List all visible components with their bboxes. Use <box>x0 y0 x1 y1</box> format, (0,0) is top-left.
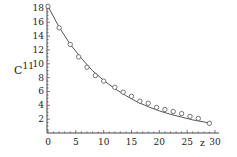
x-tick-label: 10 <box>98 137 110 147</box>
y-tick-label: 10 <box>33 59 45 69</box>
y-tick-label: 14 <box>33 31 45 41</box>
axes <box>47 4 219 133</box>
y-tick-label: 2 <box>38 114 44 124</box>
y-axis-label: C11 <box>14 61 34 77</box>
data-point <box>196 116 200 120</box>
data-markers <box>46 4 212 125</box>
x-tick-label: 5 <box>73 137 79 147</box>
ticks: 05101520253024681012141618 <box>33 3 221 147</box>
fit-curve <box>48 6 209 123</box>
data-point <box>93 73 97 77</box>
y-tick-label: 18 <box>33 3 45 13</box>
data-point <box>138 99 142 103</box>
y-tick-label: 16 <box>33 17 45 27</box>
x-tick-label: 0 <box>45 137 51 147</box>
data-point <box>171 109 175 113</box>
fit-line <box>48 6 209 123</box>
data-point <box>179 111 183 115</box>
data-point <box>129 94 133 98</box>
x-tick-label: 25 <box>181 137 193 147</box>
data-point <box>154 105 158 109</box>
chart: 05101520253024681012141618 C11 z <box>0 0 237 157</box>
data-point <box>207 121 211 125</box>
data-point <box>68 42 72 46</box>
data-point <box>101 79 105 83</box>
x-axis-label: z <box>200 138 205 148</box>
data-point <box>113 85 117 89</box>
y-tick-label: 4 <box>38 100 44 110</box>
data-point <box>46 4 50 8</box>
data-point <box>85 65 89 69</box>
x-tick-label: 30 <box>209 137 221 147</box>
data-point <box>146 101 150 105</box>
data-point <box>76 55 80 59</box>
data-point <box>57 26 61 30</box>
data-point <box>163 107 167 111</box>
y-tick-label: 8 <box>38 73 44 83</box>
y-tick-label: 12 <box>33 45 44 55</box>
data-point <box>188 114 192 118</box>
x-tick-label: 15 <box>126 137 138 147</box>
x-tick-label: 20 <box>154 137 166 147</box>
data-point <box>121 90 125 94</box>
y-tick-label: 6 <box>38 86 44 96</box>
